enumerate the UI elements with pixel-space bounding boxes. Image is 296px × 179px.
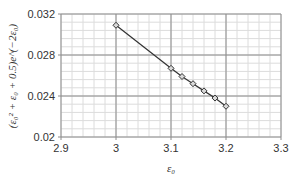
x-axis-label: ε₀	[167, 162, 175, 174]
x-axis-ticks: 2.933.13.23.3	[53, 142, 288, 154]
data-point-marker	[190, 81, 196, 87]
data-point-marker	[201, 88, 207, 94]
x-tick-label: 3	[113, 142, 119, 154]
y-tick-label: 0.028	[27, 49, 55, 61]
y-axis-label: (ε₀² + ε₀ + 0.5)e^(−2ε₀)	[6, 23, 19, 128]
y-axis-ticks: 0.020.0240.0280.032	[27, 8, 55, 143]
y-tick-label: 0.032	[27, 8, 55, 20]
x-tick-label: 3.1	[163, 142, 178, 154]
x-tick-label: 2.9	[53, 142, 68, 154]
y-tick-label: 0.024	[27, 90, 55, 102]
line-chart: 2.933.13.23.3 0.020.0240.0280.032 ε₀ (ε₀…	[0, 0, 296, 179]
x-tick-label: 3.2	[218, 142, 233, 154]
y-tick-label: 0.02	[34, 131, 55, 143]
x-tick-label: 3.3	[273, 142, 288, 154]
